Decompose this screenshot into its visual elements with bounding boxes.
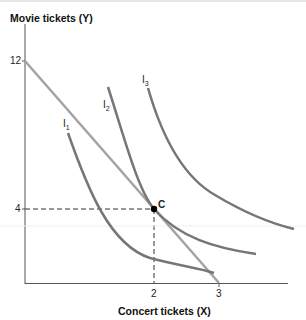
x-tick-label-3: 3 [216,288,222,299]
curve-label-i3-sub: 3 [145,80,149,87]
chart-plot [0,0,306,320]
curve-label-i2-sub: 2 [106,105,110,112]
curve-label-i1: I1 [63,118,70,131]
x-axis-title: Concert tickets (X) [118,305,211,317]
curve-label-i3: I3 [142,74,149,87]
budget-line [25,61,219,283]
curve-label-i1-sub: 1 [66,124,70,131]
point-c [151,206,157,212]
y-tick-label-12: 12 [10,55,21,66]
y-tick-label-4: 4 [15,203,21,214]
curve-label-i2: I2 [103,99,110,112]
indifference-curve-i3 [148,88,294,229]
point-c-label: C [158,199,165,210]
indifference-curve-i2 [108,87,256,254]
x-tick-label-2: 2 [151,288,157,299]
